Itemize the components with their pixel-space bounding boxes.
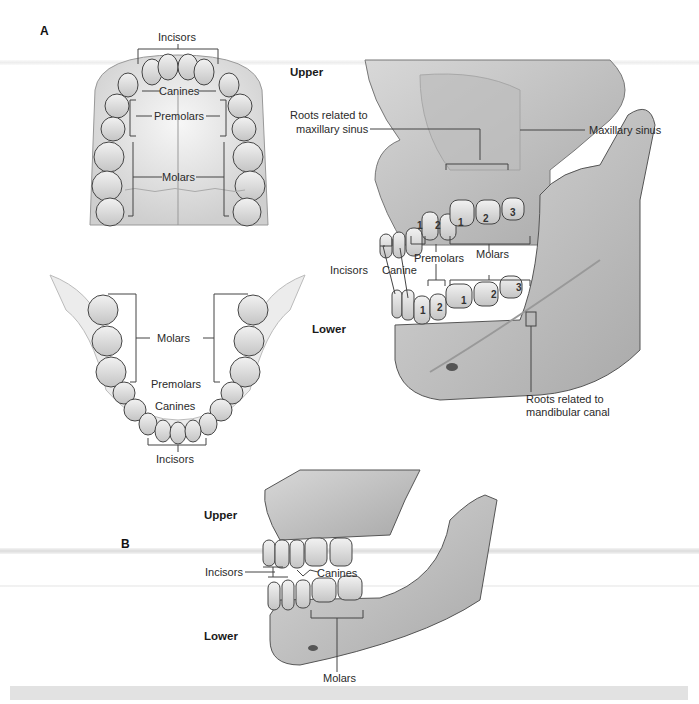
upper-arch-canines-label: Canines [159,85,199,97]
panel-label-a: A [40,24,49,38]
panel-b-molars-label: Molars [323,672,356,684]
lateral-incisors-label: Incisors [330,264,368,276]
panel-b-canines-label: Canines [317,567,357,579]
lower-tooth-number: 2 [491,289,497,301]
lower-tooth-number: 1 [420,305,426,317]
roots-maxillary-label-line1: Roots related to [290,109,368,121]
maxillary-sinus-label: Maxillary sinus [589,124,661,136]
roots-maxillary-label-line2: maxillary sinus [296,123,368,135]
upper-arch-premolars-label: Premolars [154,110,204,122]
upper-tooth-number: 2 [435,220,441,232]
lower-tooth-number: 3 [516,282,522,294]
upper-tooth-number: 3 [510,207,516,219]
lower-arch-incisors-label: Incisors [156,453,194,465]
lateral-canine-label: Canine [382,264,417,276]
roots-mandibular-label-line2: mandibular canal [526,406,610,418]
upper-arch-molars-label: Molars [162,171,195,183]
upper-jaw-label-b: Upper [204,509,237,521]
panel-b-incisors-label: Incisors [205,566,243,578]
lower-arch-premolars-label: Premolars [151,378,201,390]
lower-tooth-number: 2 [437,302,443,314]
lower-jaw-label-b: Lower [204,630,238,642]
anatomy-illustration [0,0,699,704]
lateral-skull-view [365,60,655,400]
upper-tooth-number: 1 [417,220,423,232]
lower-dental-arch [50,275,305,452]
upper-arch-incisors-label: Incisors [158,31,196,43]
lower-arch-canines-label: Canines [155,400,195,412]
lateral-premolars-label: Premolars [414,252,464,264]
panel-label-b: B [121,537,130,551]
lower-arch-molars-label: Molars [157,332,190,344]
roots-mandibular-label-line1: Roots related to [526,393,604,405]
upper-tooth-number: 1 [458,217,464,229]
panel-b-skull [263,470,497,665]
lower-jaw-label-a: Lower [312,323,346,335]
upper-jaw-label-a: Upper [290,66,323,78]
lateral-molars-label: Molars [476,248,509,260]
upper-tooth-number: 2 [483,213,489,225]
footer-bar [10,686,688,700]
lower-tooth-number: 1 [461,295,467,307]
upper-dental-arch [90,44,268,226]
